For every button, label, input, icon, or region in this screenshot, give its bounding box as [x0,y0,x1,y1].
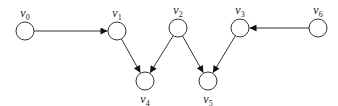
node-circle-v2 [169,19,187,37]
edge-v2-v4 [150,36,173,73]
node-circle-v0 [16,22,34,40]
node-circle-v6 [309,19,327,37]
edge-v1-v4 [121,39,140,73]
edge-v2-v5 [182,36,203,73]
node-v6: v6 [309,3,327,37]
node-circle-v3 [231,19,249,37]
node-v2: v2 [169,3,187,37]
node-label-v5: v5 [203,92,212,106]
node-v5: v5 [199,72,217,106]
node-v0: v0 [16,6,34,40]
node-circle-v1 [108,22,126,40]
node-label-v3: v3 [235,3,244,19]
nodes-layer: v0v1v2v3v4v5v6 [16,3,327,106]
node-label-v2: v2 [173,3,182,19]
node-v3: v3 [231,3,249,37]
node-circle-v5 [199,72,217,90]
node-label-v6: v6 [313,3,322,19]
node-label-v1: v1 [112,6,121,22]
graph-diagram: v0v1v2v3v4v5v6 [0,0,338,106]
node-v4: v4 [136,72,154,106]
edge-v3-v5 [213,36,235,73]
node-label-v0: v0 [20,6,29,22]
node-circle-v4 [136,72,154,90]
node-v1: v1 [108,6,126,40]
node-label-v4: v4 [140,92,149,106]
